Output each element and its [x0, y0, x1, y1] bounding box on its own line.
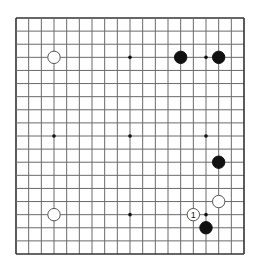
black-stone-disc	[200, 222, 212, 234]
move-number-label: 1	[191, 210, 196, 220]
star-point	[52, 134, 56, 138]
star-point	[204, 56, 208, 60]
white-stone[interactable]: 1	[187, 208, 199, 220]
black-stone-disc	[212, 156, 224, 168]
black-stone[interactable]	[212, 51, 224, 63]
star-point	[128, 56, 132, 60]
star-point	[128, 134, 132, 138]
white-stone[interactable]	[48, 51, 60, 63]
white-stone-disc	[212, 195, 224, 207]
black-stone-disc	[212, 51, 224, 63]
black-stone[interactable]	[212, 156, 224, 168]
black-stone[interactable]	[200, 222, 212, 234]
star-point	[128, 213, 132, 217]
star-point	[204, 134, 208, 138]
stones-layer: 1	[48, 51, 225, 234]
white-stone-disc	[48, 51, 60, 63]
black-stone[interactable]	[174, 51, 186, 63]
white-stone[interactable]	[48, 208, 60, 220]
white-stone[interactable]	[212, 195, 224, 207]
star-point	[204, 213, 208, 217]
go-board[interactable]: 1	[0, 0, 263, 272]
black-stone-disc	[174, 51, 186, 63]
white-stone-disc	[48, 208, 60, 220]
